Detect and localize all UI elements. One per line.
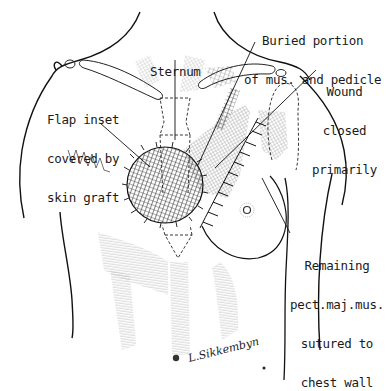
label-flap-inset: Flap inset covered by skin graft [47, 87, 119, 230]
abdomen-shading [98, 232, 238, 355]
umbilicus [173, 355, 179, 361]
label-sternum: Sternum [150, 39, 201, 104]
chest-wall-line [284, 178, 288, 380]
label-remaining-muscle: Remaining pect.maj.mus. sutured to chest… [290, 233, 384, 391]
label-wound-closed: Wound closed primarily [312, 59, 377, 202]
